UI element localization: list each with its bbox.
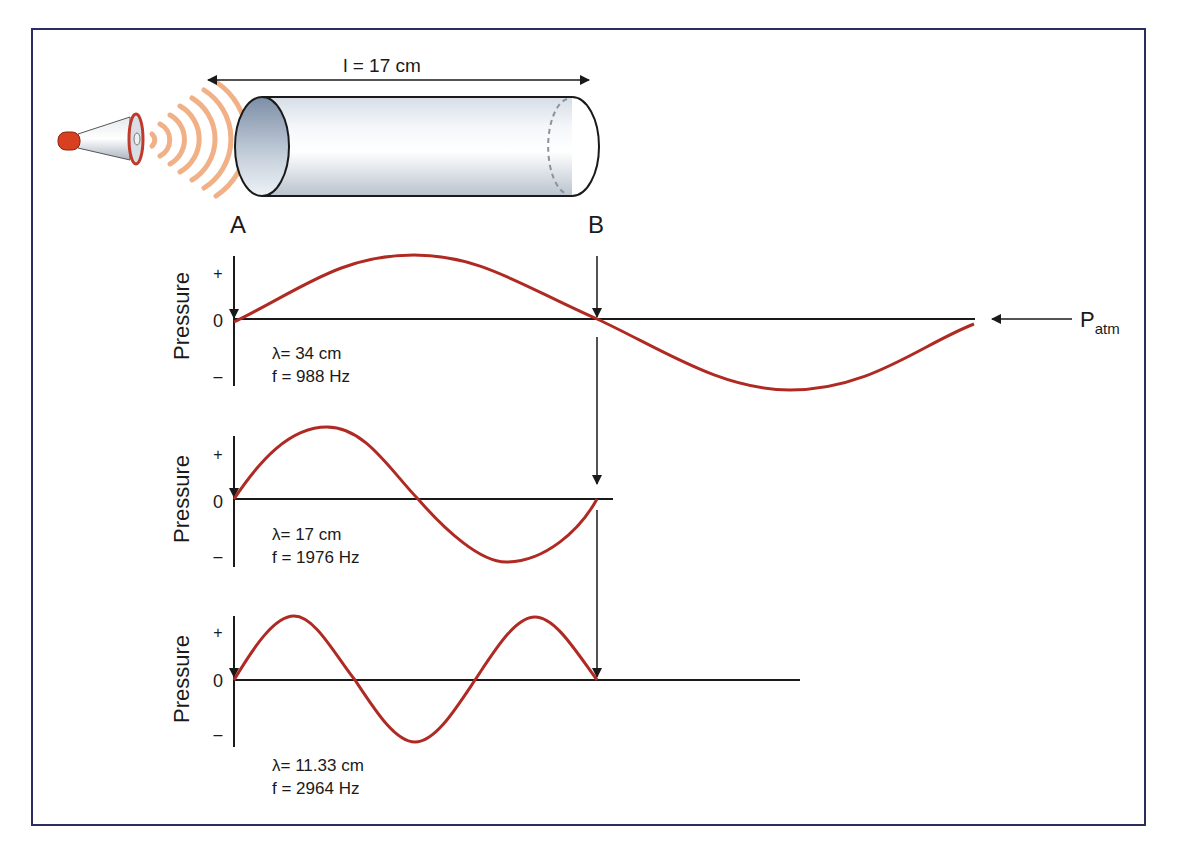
atm-pressure-label: Patm bbox=[1080, 307, 1120, 337]
end-a-label: A bbox=[230, 211, 246, 238]
pressure-axis-label: Pressure bbox=[169, 455, 194, 543]
tick-plus: + bbox=[213, 624, 222, 641]
tick-zero: 0 bbox=[213, 492, 223, 512]
pressure-axis-label: Pressure bbox=[169, 635, 194, 723]
tick-zero: 0 bbox=[213, 311, 223, 331]
frequency-label: f = 2964 Hz bbox=[272, 779, 359, 798]
tube-length-label: l = 17 cm bbox=[343, 55, 421, 76]
panel-third-harmonic: Pressure + 0 – λ= 11.33 cm f = 2964 Hz bbox=[169, 616, 800, 798]
sound-waves-icon bbox=[152, 82, 247, 196]
tick-plus: + bbox=[213, 265, 222, 282]
tick-minus: – bbox=[214, 726, 223, 743]
standing-wave-diagram: l = 17 cm A B Pressure + 0 – λ= 34 cm f … bbox=[0, 0, 1177, 852]
panel-second-harmonic: Pressure + 0 – λ= 17 cm f = 1976 Hz bbox=[169, 427, 613, 567]
wavelength-label: λ= 11.33 cm bbox=[272, 756, 364, 775]
end-b-label: B bbox=[588, 211, 604, 238]
speaker-icon bbox=[58, 114, 143, 164]
wavelength-label: λ= 17 cm bbox=[272, 525, 341, 544]
wavelength-label: λ= 34 cm bbox=[272, 344, 341, 363]
tick-zero: 0 bbox=[213, 671, 223, 691]
frequency-label: f = 1976 Hz bbox=[272, 548, 359, 567]
frequency-label: f = 988 Hz bbox=[272, 367, 350, 386]
panel-fundamental: Pressure + 0 – λ= 34 cm f = 988 Hz Patm bbox=[169, 255, 1120, 390]
pressure-axis-label: Pressure bbox=[169, 272, 194, 360]
tube bbox=[235, 97, 599, 196]
tick-minus: – bbox=[214, 368, 223, 385]
tick-plus: + bbox=[213, 446, 222, 463]
tick-minus: – bbox=[214, 548, 223, 565]
